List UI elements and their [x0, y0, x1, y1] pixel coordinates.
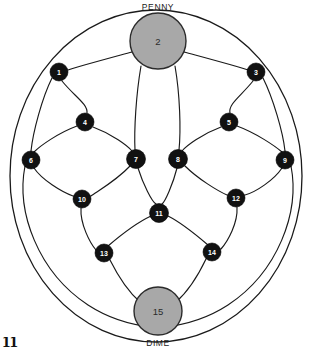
edge-6-15-outer	[23, 166, 152, 327]
edge-13-15	[110, 260, 140, 302]
edge-4-7	[93, 127, 132, 151]
edge-8-11	[162, 168, 177, 204]
node-11[interactable]: 11	[150, 204, 169, 223]
node-15[interactable]: 15	[134, 287, 182, 335]
edge-2-7	[135, 66, 141, 150]
edge-7-11	[138, 168, 156, 204]
node-15-label: 15	[153, 306, 164, 317]
edge-7-10	[91, 166, 130, 196]
node-14-label: 14	[208, 249, 216, 256]
edge-12-14	[221, 207, 237, 249]
graph-svg: 123456789101112131415	[0, 0, 312, 347]
node-13[interactable]: 13	[95, 244, 113, 262]
node-10-label: 10	[78, 196, 86, 203]
node-3[interactable]: 3	[247, 63, 265, 81]
node-4[interactable]: 4	[76, 113, 94, 131]
node-6[interactable]: 6	[22, 151, 40, 169]
node-13-label: 13	[100, 250, 108, 257]
edge-10-13	[81, 208, 96, 250]
node-8[interactable]: 8	[169, 150, 188, 169]
node-2-label: 2	[155, 36, 160, 47]
edge-9-15-outer	[164, 166, 293, 327]
node-2[interactable]: 2	[130, 13, 186, 69]
edge-2-1	[68, 52, 132, 70]
edge-5-8	[182, 127, 221, 151]
node-14[interactable]: 14	[203, 243, 221, 261]
edge-2-8	[175, 66, 180, 150]
coin-label-penny: PENNY	[142, 2, 174, 12]
node-1[interactable]: 1	[50, 63, 68, 81]
node-1-label: 1	[57, 69, 61, 76]
node-layer: 123456789101112131415	[22, 13, 294, 335]
edge-11-14	[168, 216, 208, 245]
edge-3-5	[230, 81, 253, 113]
node-4-label: 4	[83, 119, 87, 126]
node-7-label: 7	[134, 156, 138, 163]
edge-1-4	[62, 81, 87, 113]
node-9[interactable]: 9	[276, 151, 294, 169]
diagram-canvas: 123456789101112131415 PENNYDIME 11	[0, 0, 312, 347]
edge-8-12	[185, 166, 227, 195]
edge-layer	[23, 52, 293, 327]
node-5[interactable]: 5	[220, 113, 238, 131]
node-12[interactable]: 12	[227, 189, 245, 207]
node-11-label: 11	[155, 210, 163, 217]
corner-artifact-text: 11	[2, 337, 18, 347]
edge-11-13	[108, 216, 151, 246]
node-6-label: 6	[29, 157, 33, 164]
edge-2-3	[184, 52, 248, 70]
node-3-label: 3	[254, 69, 258, 76]
coin-label-dime: DIME	[146, 338, 170, 347]
node-8-label: 8	[176, 156, 180, 163]
node-7[interactable]: 7	[127, 150, 146, 169]
edge-4-6	[34, 126, 77, 152]
edge-3-9	[263, 78, 285, 151]
edge-6-10	[34, 168, 73, 196]
node-12-label: 12	[232, 195, 240, 202]
node-9-label: 9	[283, 157, 287, 164]
edge-14-15	[176, 259, 206, 302]
edge-9-12	[245, 168, 282, 195]
edge-5-9	[237, 126, 282, 152]
node-10[interactable]: 10	[73, 190, 91, 208]
node-5-label: 5	[227, 119, 231, 126]
